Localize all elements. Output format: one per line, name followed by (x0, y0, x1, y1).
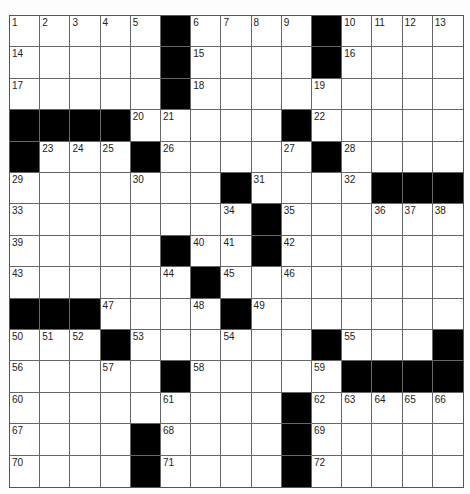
grid-cell[interactable] (70, 236, 100, 267)
grid-cell[interactable] (221, 456, 251, 487)
grid-cell[interactable] (40, 47, 70, 78)
grid-cell[interactable] (433, 142, 463, 173)
grid-cell[interactable]: 65 (403, 393, 433, 424)
grid-cell[interactable]: 28 (342, 142, 372, 173)
grid-cell[interactable] (252, 110, 282, 141)
grid-cell[interactable] (433, 47, 463, 78)
grid-cell[interactable]: 55 (342, 330, 372, 361)
grid-cell[interactable]: 52 (70, 330, 100, 361)
grid-cell[interactable] (312, 204, 342, 235)
grid-cell[interactable] (40, 361, 70, 392)
grid-cell[interactable] (372, 424, 402, 455)
grid-cell[interactable]: 42 (282, 236, 312, 267)
grid-cell[interactable]: 44 (161, 267, 191, 298)
grid-cell[interactable] (312, 236, 342, 267)
grid-cell[interactable]: 37 (403, 204, 433, 235)
grid-cell[interactable]: 27 (282, 142, 312, 173)
grid-cell[interactable]: 39 (10, 236, 40, 267)
grid-cell[interactable] (342, 424, 372, 455)
grid-cell[interactable] (40, 79, 70, 110)
grid-cell[interactable]: 36 (372, 204, 402, 235)
grid-cell[interactable] (40, 393, 70, 424)
grid-cell[interactable] (252, 393, 282, 424)
grid-cell[interactable]: 11 (372, 16, 402, 47)
grid-cell[interactable] (403, 267, 433, 298)
grid-cell[interactable]: 38 (433, 204, 463, 235)
grid-cell[interactable] (372, 236, 402, 267)
grid-cell[interactable] (282, 330, 312, 361)
grid-cell[interactable]: 61 (161, 393, 191, 424)
grid-cell[interactable] (312, 299, 342, 330)
grid-cell[interactable] (342, 204, 372, 235)
grid-cell[interactable] (131, 204, 161, 235)
grid-cell[interactable]: 64 (372, 393, 402, 424)
grid-cell[interactable] (101, 204, 131, 235)
grid-cell[interactable] (101, 47, 131, 78)
grid-cell[interactable] (161, 330, 191, 361)
grid-cell[interactable] (161, 204, 191, 235)
grid-cell[interactable]: 16 (342, 47, 372, 78)
grid-cell[interactable] (403, 236, 433, 267)
grid-cell[interactable] (403, 47, 433, 78)
grid-cell[interactable] (372, 110, 402, 141)
grid-cell[interactable]: 41 (221, 236, 251, 267)
grid-cell[interactable] (191, 173, 221, 204)
grid-cell[interactable] (433, 456, 463, 487)
grid-cell[interactable] (433, 110, 463, 141)
grid-cell[interactable]: 22 (312, 110, 342, 141)
grid-cell[interactable]: 67 (10, 424, 40, 455)
grid-cell[interactable] (252, 456, 282, 487)
grid-cell[interactable] (221, 142, 251, 173)
grid-cell[interactable]: 20 (131, 110, 161, 141)
grid-cell[interactable]: 13 (433, 16, 463, 47)
grid-cell[interactable] (252, 330, 282, 361)
grid-cell[interactable]: 70 (10, 456, 40, 487)
grid-cell[interactable] (221, 361, 251, 392)
grid-cell[interactable] (403, 456, 433, 487)
grid-cell[interactable]: 68 (161, 424, 191, 455)
grid-cell[interactable] (403, 142, 433, 173)
grid-cell[interactable]: 21 (161, 110, 191, 141)
grid-cell[interactable]: 30 (131, 173, 161, 204)
grid-cell[interactable] (101, 456, 131, 487)
grid-cell[interactable] (70, 47, 100, 78)
grid-cell[interactable]: 26 (161, 142, 191, 173)
grid-cell[interactable]: 19 (312, 79, 342, 110)
grid-cell[interactable]: 17 (10, 79, 40, 110)
grid-cell[interactable] (433, 424, 463, 455)
grid-cell[interactable] (131, 393, 161, 424)
grid-cell[interactable] (372, 299, 402, 330)
grid-cell[interactable] (433, 236, 463, 267)
grid-cell[interactable] (342, 79, 372, 110)
grid-cell[interactable]: 45 (221, 267, 251, 298)
grid-cell[interactable] (40, 204, 70, 235)
grid-cell[interactable]: 23 (40, 142, 70, 173)
grid-cell[interactable]: 72 (312, 456, 342, 487)
grid-cell[interactable] (101, 393, 131, 424)
grid-cell[interactable] (161, 173, 191, 204)
grid-cell[interactable] (221, 393, 251, 424)
grid-cell[interactable]: 54 (221, 330, 251, 361)
grid-cell[interactable] (252, 424, 282, 455)
grid-cell[interactable]: 25 (101, 142, 131, 173)
grid-cell[interactable]: 57 (101, 361, 131, 392)
grid-cell[interactable]: 9 (282, 16, 312, 47)
grid-cell[interactable] (312, 173, 342, 204)
grid-cell[interactable] (342, 456, 372, 487)
grid-cell[interactable]: 5 (131, 16, 161, 47)
grid-cell[interactable] (70, 361, 100, 392)
grid-cell[interactable] (342, 110, 372, 141)
grid-cell[interactable] (252, 79, 282, 110)
grid-cell[interactable] (191, 393, 221, 424)
grid-cell[interactable] (221, 47, 251, 78)
grid-cell[interactable]: 6 (191, 16, 221, 47)
grid-cell[interactable] (101, 424, 131, 455)
grid-cell[interactable]: 18 (191, 79, 221, 110)
grid-cell[interactable] (372, 267, 402, 298)
grid-cell[interactable]: 31 (252, 173, 282, 204)
grid-cell[interactable] (221, 79, 251, 110)
grid-cell[interactable] (282, 173, 312, 204)
grid-cell[interactable]: 10 (342, 16, 372, 47)
grid-cell[interactable] (403, 424, 433, 455)
grid-cell[interactable] (221, 424, 251, 455)
